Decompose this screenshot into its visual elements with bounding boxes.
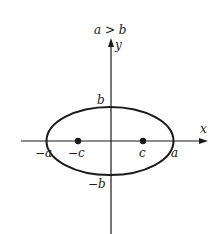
x-axis-arrow-icon <box>199 138 208 144</box>
label-a-right: a <box>171 146 178 160</box>
label-c-left: −c <box>68 146 85 160</box>
y-axis-arrow-icon <box>108 38 114 47</box>
label-a-left: −a <box>35 146 52 160</box>
focus-left-point <box>75 138 81 144</box>
focus-right-point <box>140 138 146 144</box>
y-axis-label: y <box>114 38 122 52</box>
condition-label: a > b <box>94 23 127 37</box>
x-axis-label: x <box>200 122 207 136</box>
label-b-bottom: −b <box>88 177 106 191</box>
label-b-top: b <box>97 93 105 107</box>
label-c-right: c <box>139 146 146 160</box>
ellipse-diagram: a > b y x b −b −a a −c c <box>0 0 220 234</box>
